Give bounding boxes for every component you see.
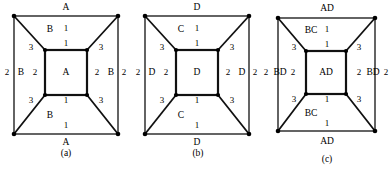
right-diag-top-3: 3 xyxy=(230,43,235,53)
top-region-edge-1: 1 xyxy=(325,25,330,35)
outer-top-label: D xyxy=(194,3,201,13)
right-diag-bottom-3: 3 xyxy=(99,96,104,106)
bottom-region-letter: BC xyxy=(305,109,318,119)
left-inner-edge-2: 2 xyxy=(33,68,38,78)
right-inner-edge-2: 2 xyxy=(95,68,100,78)
left-inner-edge-2: 2 xyxy=(164,68,169,78)
bottom-region-letter: B xyxy=(47,111,53,121)
panel-caption: (a) xyxy=(61,148,72,158)
left-outer-edge-2: 2 xyxy=(5,68,10,78)
inner-vertex-4 xyxy=(43,93,47,97)
figure-root: AA1B11B133332B2A2B2(a)DD1C11C133332D2D2D… xyxy=(0,0,391,172)
right-region-letter: D xyxy=(239,68,246,78)
bottom-region-edge-inner: 1 xyxy=(325,95,330,105)
right-diag-bottom-3: 3 xyxy=(230,96,235,106)
inner-vertex-2 xyxy=(216,48,220,52)
left-outer-edge-2: 2 xyxy=(136,68,141,78)
outer-vertex-3 xyxy=(247,132,252,137)
outer-bottom-label: A xyxy=(63,138,70,148)
top-region-edge-inner: 1 xyxy=(195,39,200,49)
top-region-letter: C xyxy=(178,25,184,35)
panel-caption: (c) xyxy=(322,154,333,164)
panel-caption: (b) xyxy=(192,148,203,158)
outer-vertex-4 xyxy=(12,132,17,137)
outer-top-label: A xyxy=(63,3,70,13)
left-diag-bottom-3: 3 xyxy=(29,96,34,106)
inner-vertex-2 xyxy=(344,49,348,53)
bottom-region-letter: C xyxy=(178,111,184,121)
top-region-edge-1: 1 xyxy=(195,24,200,34)
left-region-letter: BD xyxy=(273,68,286,78)
right-diag-top-3: 3 xyxy=(99,43,104,53)
outer-bottom-label: AD xyxy=(320,137,334,147)
inner-vertex-1 xyxy=(174,48,178,52)
bottom-region-edge-1: 1 xyxy=(64,121,69,131)
left-diag-bottom-3: 3 xyxy=(160,96,165,106)
inner-square-letter: AD xyxy=(319,68,333,78)
diagram-panel-c: ADAD1BC11BC133332BD2AD2BD2(c) xyxy=(255,0,385,172)
outer-top-label: AD xyxy=(320,4,334,14)
top-region-edge-1: 1 xyxy=(64,24,69,34)
top-region-edge-inner: 1 xyxy=(325,40,330,50)
left-diag-top-3: 3 xyxy=(292,43,297,53)
top-region-letter: B xyxy=(47,25,53,35)
top-region-edge-inner: 1 xyxy=(64,39,69,49)
left-outer-edge-2: 2 xyxy=(264,68,269,78)
outer-vertex-3 xyxy=(373,129,378,134)
outer-vertex-1 xyxy=(276,16,281,21)
diagram-panel-b: DD1C11C133332D2D2D2(b) xyxy=(126,0,256,172)
bottom-region-edge-1: 1 xyxy=(325,119,330,129)
right-outer-edge-2: 2 xyxy=(384,68,389,78)
inner-vertex-3 xyxy=(344,92,348,96)
outer-vertex-2 xyxy=(247,14,252,19)
right-diag-top-3: 3 xyxy=(357,43,362,53)
right-diag-bottom-3: 3 xyxy=(357,95,362,105)
top-region-letter: BC xyxy=(305,26,318,36)
inner-vertex-4 xyxy=(174,93,178,97)
outer-bottom-label: D xyxy=(194,138,201,148)
inner-vertex-3 xyxy=(216,93,220,97)
outer-vertex-2 xyxy=(373,16,378,21)
diagram-panel-a: AA1B11B133332B2A2B2(a) xyxy=(0,0,130,172)
bottom-region-edge-1: 1 xyxy=(195,121,200,131)
right-region-letter: B xyxy=(108,68,114,78)
inner-square-letter: D xyxy=(194,68,201,78)
outer-vertex-4 xyxy=(276,129,281,134)
inner-vertex-1 xyxy=(43,48,47,52)
right-inner-edge-2: 2 xyxy=(357,68,362,78)
outer-vertex-1 xyxy=(143,14,148,19)
left-diag-bottom-3: 3 xyxy=(292,95,297,105)
left-region-letter: B xyxy=(18,68,24,78)
outer-vertex-3 xyxy=(116,132,121,137)
right-region-letter: BD xyxy=(366,68,379,78)
left-region-letter: D xyxy=(149,68,156,78)
right-inner-edge-2: 2 xyxy=(226,68,231,78)
inner-vertex-1 xyxy=(304,49,308,53)
outer-vertex-1 xyxy=(12,14,17,19)
inner-vertex-2 xyxy=(85,48,89,52)
bottom-region-edge-inner: 1 xyxy=(64,96,69,106)
inner-vertex-4 xyxy=(304,92,308,96)
bottom-region-edge-inner: 1 xyxy=(195,96,200,106)
outer-vertex-2 xyxy=(116,14,121,19)
inner-vertex-3 xyxy=(85,93,89,97)
inner-square-letter: A xyxy=(63,68,70,78)
outer-vertex-4 xyxy=(143,132,148,137)
left-diag-top-3: 3 xyxy=(160,43,165,53)
left-diag-top-3: 3 xyxy=(29,43,34,53)
left-inner-edge-2: 2 xyxy=(291,68,296,78)
